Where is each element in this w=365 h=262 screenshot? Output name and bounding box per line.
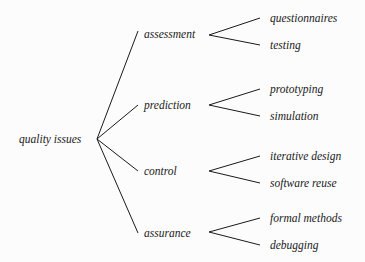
leaf-iterative-design: iterative design (270, 151, 341, 163)
root-node: quality issues (19, 134, 81, 146)
leaf-questionnaires: questionnaires (270, 13, 337, 25)
node-assurance: assurance (144, 228, 191, 240)
node-prediction: prediction (144, 100, 191, 112)
leaf-debugging: debugging (270, 240, 319, 252)
leaf-software-reuse: software reuse (270, 178, 337, 190)
leaf-simulation: simulation (270, 111, 319, 123)
leaf-prototyping: prototyping (270, 84, 323, 96)
node-assessment: assessment (144, 29, 195, 41)
leaf-testing: testing (270, 40, 301, 52)
node-control: control (144, 166, 177, 178)
leaf-formal-methods: formal methods (270, 213, 342, 225)
